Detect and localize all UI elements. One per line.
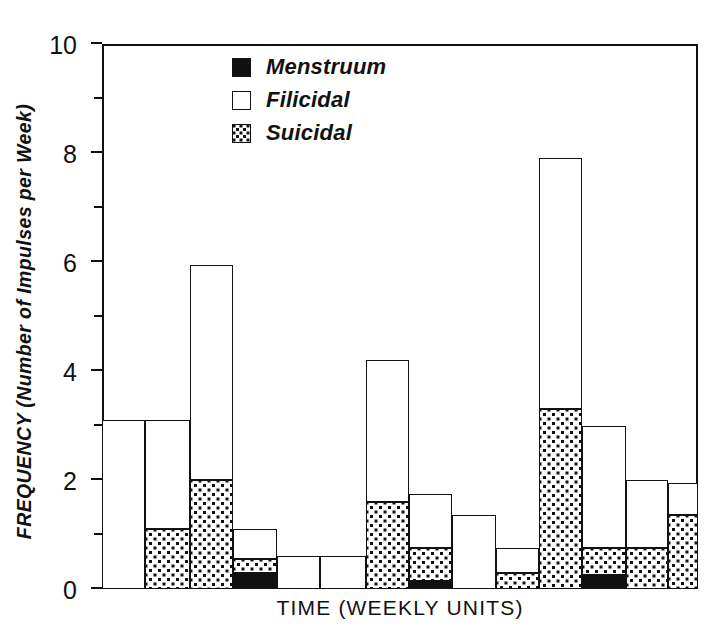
y-tick-minor — [94, 315, 102, 317]
bar-column — [539, 158, 583, 589]
y-tick-label: 2 — [63, 467, 77, 496]
bar-segment-filicidal — [409, 494, 453, 549]
bar-column — [409, 502, 453, 589]
bar-segment-filicidal — [102, 420, 145, 589]
bar-segment-menstruum — [233, 573, 277, 589]
legend: MenstruumFilicidalSuicidal — [232, 52, 462, 151]
bar-column — [145, 420, 190, 589]
bar-segment-suicidal — [366, 502, 409, 589]
bar-segment-filicidal — [145, 420, 190, 529]
y-axis-title-container: FREQUENCY (Number of Impulses per Week) — [0, 0, 48, 643]
bar-column — [277, 556, 320, 589]
bar-segment-filicidal — [320, 556, 366, 589]
legend-item: Menstruum — [232, 52, 462, 82]
bar-column — [582, 426, 626, 590]
y-tick-major: 0 — [91, 587, 102, 589]
bar-column — [452, 515, 496, 589]
x-axis-title: TIME (WEEKLY UNITS) — [102, 596, 698, 620]
bar-column — [233, 529, 277, 589]
bar-segment-suicidal — [190, 480, 232, 589]
solid-black-square-icon — [232, 58, 251, 77]
bar-segment-filicidal — [233, 529, 277, 559]
bar-segment-menstruum — [409, 581, 453, 589]
y-axis-title: FREQUENCY (Number of Impulses per Week) — [13, 104, 36, 539]
bar-segment-suicidal — [409, 548, 453, 581]
y-tick-label: 8 — [63, 140, 77, 169]
y-tick-major: 8 — [91, 151, 102, 153]
bar-segment-filicidal — [452, 515, 496, 589]
bar-segment-filicidal — [496, 548, 539, 573]
white-square-icon — [232, 91, 251, 110]
bar-column — [496, 548, 539, 589]
bar-segment-filicidal — [190, 265, 232, 480]
bar-segment-suicidal — [539, 409, 583, 589]
bar-segment-suicidal — [145, 529, 190, 589]
bar-segment-filicidal — [626, 480, 668, 548]
bar-segment-suicidal — [626, 548, 668, 589]
legend-item: Filicidal — [232, 85, 462, 115]
legend-item-label: Filicidal — [266, 87, 350, 113]
y-tick-label: 4 — [63, 358, 77, 387]
legend-item: Suicidal — [232, 118, 462, 148]
bar-segment-filicidal — [668, 483, 698, 516]
figure-bar-chart: FREQUENCY (Number of Impulses per Week) … — [0, 0, 727, 643]
y-tick-minor — [94, 206, 102, 208]
y-tick-major: 4 — [91, 369, 102, 371]
y-tick-major: 2 — [91, 478, 102, 480]
bar-segment-suicidal — [496, 573, 539, 589]
bar-segment-menstruum — [582, 575, 626, 589]
y-tick-minor — [94, 424, 102, 426]
bar-segment-filicidal — [366, 360, 409, 502]
y-tick-minor — [94, 533, 102, 535]
bar-column — [626, 480, 668, 589]
bar-column — [102, 420, 145, 589]
y-tick-major: 10 — [91, 42, 102, 44]
y-tick-label: 6 — [63, 249, 77, 278]
bar-segment-filicidal — [582, 426, 626, 549]
legend-item-label: Suicidal — [266, 120, 352, 146]
bar-column — [668, 483, 698, 589]
bar-column — [366, 360, 409, 589]
bar-segment-suicidal — [582, 548, 626, 575]
bar-segment-suicidal — [668, 515, 698, 589]
bar-column — [320, 556, 366, 589]
y-tick-label: 10 — [49, 31, 77, 60]
bar-column — [190, 265, 232, 589]
bar-segment-filicidal — [539, 158, 583, 409]
stippled-square-icon — [232, 124, 251, 143]
y-tick-major: 6 — [91, 260, 102, 262]
y-tick-minor — [94, 97, 102, 99]
legend-item-label: Menstruum — [266, 54, 386, 80]
y-tick-label: 0 — [63, 576, 77, 605]
bar-segment-filicidal — [277, 556, 320, 589]
bar-segment-suicidal — [233, 559, 277, 573]
